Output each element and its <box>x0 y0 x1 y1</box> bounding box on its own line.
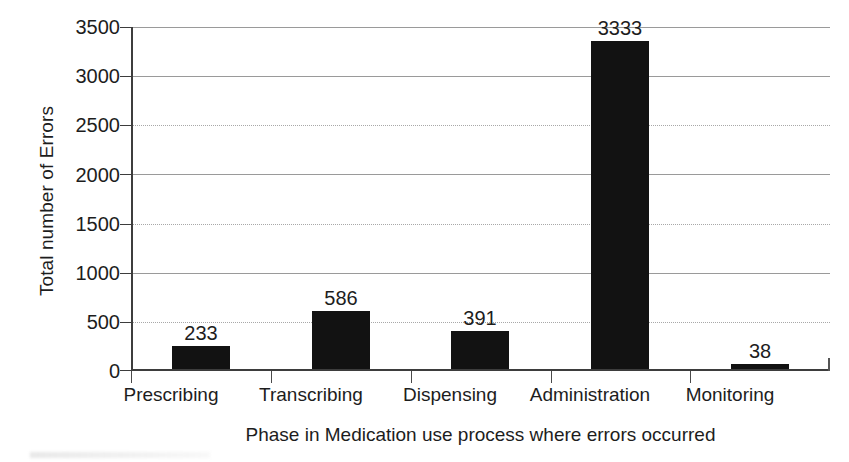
gridline-3000 <box>131 76 830 78</box>
x-tick-mark <box>690 371 691 383</box>
bar-administration <box>591 41 649 369</box>
x-tick-mark <box>411 371 412 383</box>
plot-area: 233 586 391 3333 38 <box>131 27 830 371</box>
y-tick-mark <box>120 174 131 175</box>
x-axis-line <box>131 369 830 371</box>
bar-value-label: 233 <box>151 323 251 343</box>
x-category-label-prescribing: Prescribing <box>101 385 241 405</box>
y-tick-label: 1000 <box>34 263 120 283</box>
y-tick-mark <box>120 273 131 274</box>
y-tick-label: 500 <box>34 312 120 332</box>
y-tick-label: 2000 <box>34 165 120 185</box>
bar-transcribing <box>312 311 370 369</box>
y-tick-mark <box>120 76 131 77</box>
bar-prescribing <box>172 346 230 369</box>
bar-value-label: 38 <box>710 341 810 361</box>
gridline-2000 <box>131 174 830 176</box>
bar-chart: Total number of Errors 0 500 1000 1500 2… <box>0 0 849 462</box>
y-tick-mark <box>120 224 131 225</box>
y-tick-label: 3000 <box>34 66 120 86</box>
bar-monitoring <box>731 364 789 369</box>
y-tick-label: 0 <box>34 361 120 381</box>
x-axis-right-cap <box>828 358 830 371</box>
x-tick-mark <box>131 371 132 383</box>
x-category-label-transcribing: Transcribing <box>241 385 381 405</box>
x-category-label-dispensing: Dispensing <box>380 385 520 405</box>
y-tick-mark <box>120 370 131 371</box>
y-tick-label: 2500 <box>34 115 120 135</box>
bar-value-label: 586 <box>291 288 391 308</box>
y-tick-mark <box>120 125 131 126</box>
y-tick-mark <box>120 322 131 323</box>
gridline-2500 <box>131 125 830 127</box>
gridline-1000 <box>131 273 830 275</box>
y-tick-label: 1500 <box>34 214 120 234</box>
gridline-1500 <box>131 224 830 226</box>
bar-dispensing <box>451 331 509 369</box>
x-category-label-monitoring: Monitoring <box>660 385 800 405</box>
x-tick-mark <box>271 371 272 383</box>
gridline-3500 <box>131 27 830 29</box>
x-axis-title: Phase in Medication use process where er… <box>131 424 830 446</box>
bar-value-label: 391 <box>430 308 530 328</box>
x-category-label-administration: Administration <box>520 385 660 405</box>
x-tick-mark <box>551 371 552 383</box>
y-tick-mark <box>120 27 131 28</box>
y-axis-line <box>131 27 133 371</box>
bar-value-label: 3333 <box>565 18 675 38</box>
scan-artifact <box>30 452 210 458</box>
y-tick-label: 3500 <box>34 17 120 37</box>
